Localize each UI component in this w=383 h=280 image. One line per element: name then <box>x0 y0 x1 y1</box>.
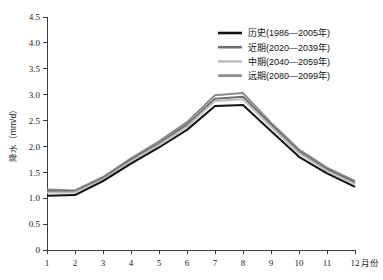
series-line <box>47 93 355 190</box>
y-tick-label: 0 <box>36 245 41 255</box>
x-tick-label: 7 <box>213 258 218 268</box>
chart-legend: 历史(1986—2005年)近期(2020—2039年)中期(2040—2059… <box>218 27 330 81</box>
y-tick-label: 4.5 <box>29 12 41 22</box>
legend-label: 远期(2080—2099年) <box>248 70 330 81</box>
y-axis-title: 降水（mm/d） <box>8 105 18 162</box>
x-axis-title: 月份 <box>361 258 379 268</box>
x-tick-label: 5 <box>157 258 162 268</box>
x-tick-label: 10 <box>295 258 305 268</box>
x-tick-label: 4 <box>129 258 134 268</box>
series-line <box>47 99 355 192</box>
legend-label: 中期(2040—2059年) <box>248 56 330 67</box>
x-tick-label: 8 <box>241 258 246 268</box>
y-tick-label: 3.5 <box>29 64 41 74</box>
x-tick-label: 6 <box>185 258 190 268</box>
y-tick-label: 3.0 <box>29 90 41 100</box>
y-tick-label: 2.5 <box>29 116 41 126</box>
chart-canvas: 00.51.01.52.02.53.03.54.04.5 12345678910… <box>0 0 383 280</box>
x-tick-label: 3 <box>101 258 106 268</box>
x-tick-label: 12 <box>351 258 360 268</box>
x-tick-label: 9 <box>269 258 274 268</box>
y-tick-label: 4.0 <box>29 38 41 48</box>
x-tick-label: 1 <box>45 258 50 268</box>
y-tick-label: 1.5 <box>29 168 41 178</box>
x-tick-label: 2 <box>73 258 78 268</box>
data-series-group <box>47 93 355 196</box>
y-axis: 00.51.01.52.02.53.03.54.04.5 <box>29 12 47 255</box>
series-line <box>47 97 355 192</box>
y-tick-label: 1.0 <box>29 193 41 203</box>
x-tick-label: 11 <box>323 258 332 268</box>
x-axis: 123456789101112 <box>45 250 360 268</box>
precipitation-line-chart: 00.51.01.52.02.53.03.54.04.5 12345678910… <box>0 0 383 280</box>
legend-label: 历史(1986—2005年) <box>248 27 330 38</box>
axis-titles: 月份降水（mm/d） <box>8 105 379 268</box>
y-tick-label: 2.0 <box>29 142 41 152</box>
y-tick-label: 0.5 <box>29 219 41 229</box>
legend-label: 近期(2020—2039年) <box>248 42 330 53</box>
